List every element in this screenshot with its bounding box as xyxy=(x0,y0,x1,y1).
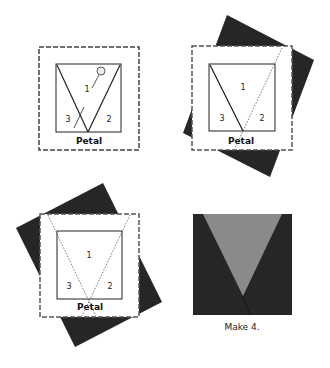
section-label-3: 3 xyxy=(66,282,71,291)
section-label-3: 3 xyxy=(65,115,70,124)
section-label-2: 2 xyxy=(107,282,112,291)
pattern-label: Petal xyxy=(77,302,103,312)
section-label-1: 1 xyxy=(240,83,245,92)
section-label-1: 1 xyxy=(86,251,91,260)
panel-step-2: 1 2 3 Petal xyxy=(183,15,314,177)
panel-step-4-finished: Make 4. xyxy=(193,214,292,332)
make-count-caption: Make 4. xyxy=(224,322,259,332)
section-label-2: 2 xyxy=(259,114,264,123)
pattern-label: Petal xyxy=(228,136,254,146)
panel-step-3: 1 2 3 Petal xyxy=(16,183,162,347)
pattern-label: Petal xyxy=(76,136,102,146)
section-label-1: 1 xyxy=(84,85,89,94)
section-label-3: 3 xyxy=(219,114,224,123)
foundation-paper-outline xyxy=(39,47,139,150)
panel-step-1: 1 2 3 Petal xyxy=(39,47,139,150)
petal-block-diagram: 1 2 3 Petal 1 2 3 Petal 1 2 3 Petal Make… xyxy=(0,0,330,368)
section-label-2: 2 xyxy=(106,115,111,124)
pin-head-icon xyxy=(97,67,105,75)
foundation-paper-outline xyxy=(192,46,292,150)
